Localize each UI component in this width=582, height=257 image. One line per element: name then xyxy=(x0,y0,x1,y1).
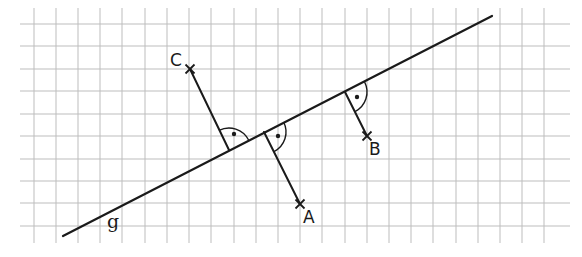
right-angle-dot-icon xyxy=(232,132,236,136)
right-angle-dot-icon xyxy=(355,95,359,99)
point-label-b: B xyxy=(369,139,381,159)
point-label-c: C xyxy=(170,50,182,70)
line-g-label: g xyxy=(107,210,119,232)
point-label-a: A xyxy=(303,207,315,227)
geometry-diagram: g CAB xyxy=(0,0,582,257)
background xyxy=(0,0,582,257)
right-angle-dot-icon xyxy=(276,134,280,138)
